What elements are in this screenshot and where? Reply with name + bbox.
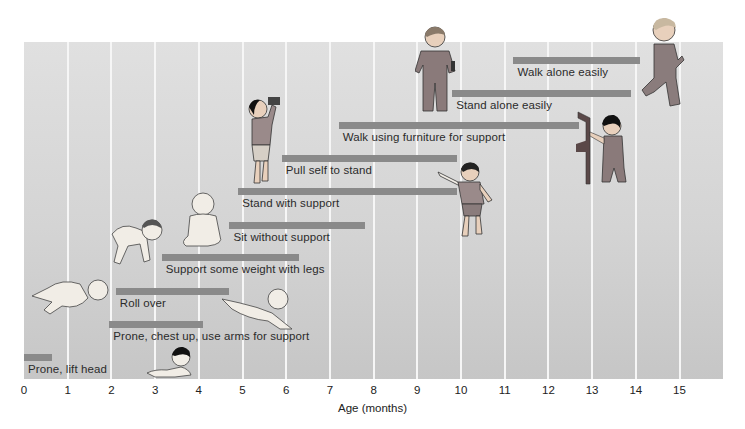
baby-lying-prone-icon (145, 343, 195, 379)
milestone-bar (116, 288, 230, 295)
baby-sitting-icon (178, 190, 228, 250)
gridline (373, 42, 375, 379)
milestone-label: Prone, chest up, use arms for support (113, 330, 309, 342)
x-tick-label: 14 (629, 384, 642, 396)
gridline (635, 42, 637, 379)
x-tick-label: 12 (542, 384, 555, 396)
baby-crawling-icon (108, 210, 168, 268)
milestone-label: Prone, lift head (28, 363, 107, 375)
x-tick-label: 15 (673, 384, 686, 396)
x-tick-label: 1 (64, 384, 70, 396)
baby-chest-up-icon (218, 285, 298, 333)
milestone-bar (229, 222, 364, 229)
milestone-bar (238, 188, 457, 195)
milestone-label: Stand alone easily (456, 99, 552, 111)
x-tick-label: 0 (21, 384, 27, 396)
toddler-standing-object-icon (246, 95, 286, 187)
milestone-label: Sit without support (233, 231, 330, 243)
milestone-label: Stand with support (242, 197, 339, 209)
x-tick-label: 11 (499, 384, 511, 396)
x-tick-label: 2 (108, 384, 114, 396)
milestone-bar (452, 90, 631, 97)
x-tick-label: 5 (239, 384, 245, 396)
x-tick-label: 13 (586, 384, 599, 396)
gridline (329, 42, 331, 379)
milestone-bar (162, 254, 300, 261)
baby-rolling-icon (28, 270, 112, 318)
x-tick-label: 9 (414, 384, 420, 396)
toddler-walking-icon (640, 16, 686, 110)
x-tick-label: 7 (327, 384, 333, 396)
x-tick-label: 8 (370, 384, 376, 396)
milestone-bar (339, 122, 579, 129)
x-tick-label: 3 (152, 384, 158, 396)
toddler-furniture-icon (574, 108, 636, 190)
x-tick-label: 4 (196, 384, 202, 396)
milestone-bar (109, 321, 203, 328)
gridline (67, 42, 69, 379)
milestone-bar (513, 57, 640, 64)
milestone-label: Walk alone easily (517, 66, 608, 78)
milestone-label: Support some weight with legs (166, 263, 325, 275)
x-tick-label: 10 (455, 384, 468, 396)
toddler-pointing-icon (436, 160, 510, 240)
x-tick-label: 6 (283, 384, 289, 396)
toddler-overalls-icon (415, 25, 461, 115)
x-axis-label: Age (months) (0, 402, 745, 414)
milestone-bar (24, 354, 52, 361)
milestone-label: Walk using furniture for support (343, 131, 506, 143)
milestone-label: Roll over (120, 297, 166, 309)
milestone-bar (282, 155, 457, 162)
milestone-label: Pull self to stand (286, 164, 372, 176)
